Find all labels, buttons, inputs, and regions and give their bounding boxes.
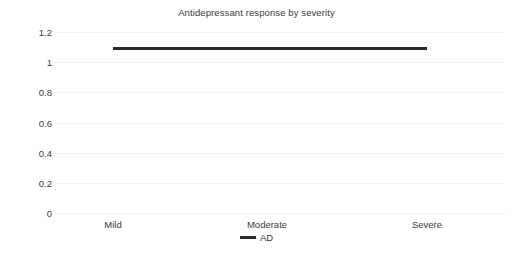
series-layer [55,32,505,213]
plot-area [55,32,505,213]
y-tick-label: 0.4 [6,147,52,158]
y-axis: 0 0.2 0.4 0.6 0.8 1 1.2 [0,32,52,213]
x-axis: Mild Moderate Severe [55,219,505,233]
x-tick-label-severe: Severe [412,219,442,230]
chart-container: Antidepressant response by severity 0 0.… [0,0,513,259]
y-tick-label: 0.8 [6,87,52,98]
y-tick-label: 0.6 [6,117,52,128]
y-tick-label: 0.2 [6,177,52,188]
legend-label-ad: AD [260,232,273,243]
gridline-baseline [55,213,505,214]
y-tick-label: 0 [6,208,52,219]
line-marker-icon [240,236,256,239]
legend-item-ad[interactable]: AD [240,232,273,243]
chart-legend: AD [0,232,513,243]
x-tick-label-moderate: Moderate [247,219,287,230]
y-tick-label: 1.2 [6,27,52,38]
x-tick-label-mild: Mild [104,219,121,230]
chart-title: Antidepressant response by severity [0,7,513,18]
y-tick-label: 1 [6,57,52,68]
